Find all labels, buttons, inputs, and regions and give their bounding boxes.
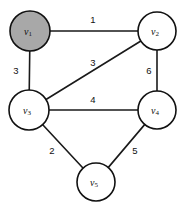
node-layer: v1v2v3v4v5	[9, 11, 176, 201]
node-label-subscript-v2: 2	[155, 30, 159, 38]
node-label-subscript-v4: 4	[155, 109, 159, 117]
node-label-subscript-v1: 1	[28, 30, 32, 38]
graph-edge-v1-v3	[29, 50, 30, 90]
graph-node-v2[interactable]: v2	[138, 12, 176, 50]
edge-weight-v2-v4: 6	[146, 65, 151, 76]
graph-node-v3[interactable]: v3	[9, 90, 49, 130]
graph-node-v1[interactable]: v1	[10, 11, 50, 51]
weighted-graph-figure: v1v2v3v4v5 1336425	[0, 0, 189, 205]
edge-weight-v1-v2: 1	[90, 14, 95, 25]
edge-weight-v1-v3: 3	[13, 65, 18, 76]
edge-weight-v3-v5: 2	[49, 145, 54, 156]
edge-weight-v3-v2: 3	[90, 57, 95, 68]
edge-weight-v4-v5: 5	[132, 145, 137, 156]
graph-edge-v3-v2	[46, 41, 142, 100]
graph-node-v5[interactable]: v5	[77, 163, 115, 201]
node-label-subscript-v5: 5	[94, 181, 98, 189]
edge-weight-v3-v4: 4	[90, 94, 95, 105]
graph-canvas: v1v2v3v4v5 1336425	[0, 0, 189, 205]
graph-edge-v4-v5	[108, 124, 145, 168]
graph-node-v4[interactable]: v4	[138, 91, 176, 129]
node-label-subscript-v3: 3	[27, 109, 31, 117]
